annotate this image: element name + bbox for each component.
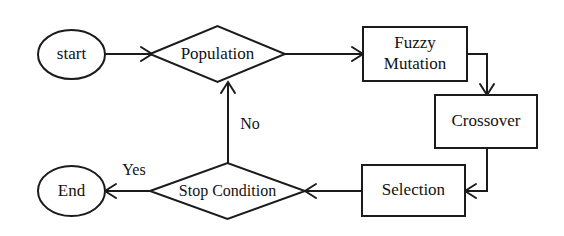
flowchart-svg: start Population Fuzzy Mutation Crossove… (0, 0, 564, 236)
node-fuzzy-mutation-label-line1: Fuzzy (394, 33, 436, 52)
node-selection[interactable]: Selection (362, 165, 465, 216)
node-start-label: start (57, 44, 87, 63)
node-stop-condition-label: Stop Condition (179, 182, 276, 200)
node-start[interactable]: start (38, 30, 105, 79)
node-stop-condition[interactable]: Stop Condition (150, 163, 305, 219)
node-population-label: Population (181, 44, 255, 63)
edge-stop-condition-to-population (221, 82, 235, 163)
node-fuzzy-mutation-label-line2: Mutation (384, 54, 447, 73)
edge-population-to-fuzzy-mutation (285, 47, 363, 61)
edge-stop-condition-to-end (105, 184, 150, 198)
edge-label-no: No (240, 115, 260, 132)
edge-start-to-population (105, 47, 152, 61)
node-crossover[interactable]: Crossover (435, 95, 537, 148)
edge-selection-to-stop-condition (305, 184, 362, 198)
node-crossover-label: Crossover (452, 111, 521, 130)
node-end[interactable]: End (38, 166, 105, 216)
edge-fuzzy-mutation-to-crossover (467, 54, 494, 95)
edge-crossover-to-selection (465, 148, 487, 198)
node-selection-label: Selection (382, 180, 446, 199)
node-fuzzy-mutation[interactable]: Fuzzy Mutation (363, 27, 467, 81)
node-end-label: End (58, 181, 86, 200)
node-population[interactable]: Population (150, 26, 285, 82)
flowchart-canvas: start Population Fuzzy Mutation Crossove… (0, 0, 564, 236)
edge-label-yes: Yes (122, 161, 145, 178)
